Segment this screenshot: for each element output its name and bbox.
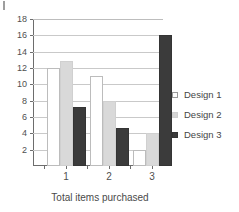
bar (133, 150, 146, 166)
x-tick-label: 1 (56, 171, 76, 182)
y-tick-label: 12 (5, 64, 27, 73)
bar (103, 101, 116, 166)
legend-item[interactable]: Design 2 (172, 110, 222, 120)
x-tick-mark-minor (130, 166, 131, 169)
y-tick-label: 16 (5, 31, 27, 40)
bar (146, 133, 159, 166)
legend-item[interactable]: Design 3 (172, 130, 222, 140)
y-tick-label: 10 (5, 80, 27, 89)
bar-group (133, 19, 172, 166)
x-tick-mark (152, 166, 153, 169)
bar (73, 107, 86, 166)
plot-area: 123 (33, 19, 163, 166)
bar-series-container (33, 19, 163, 166)
x-tick-mark-minor (44, 166, 45, 169)
legend-label: Design 1 (184, 90, 222, 100)
bar-group (47, 19, 86, 166)
legend-item[interactable]: Design 1 (172, 90, 222, 100)
bar (47, 68, 60, 166)
legend-label: Design 3 (184, 130, 222, 140)
y-tick-label: 4 (5, 129, 27, 138)
y-tick-label: 18 (5, 15, 27, 24)
x-tick-mark-minor (87, 166, 88, 169)
x-tick-label: 2 (99, 171, 119, 182)
bar (159, 35, 172, 166)
y-tick-label: 6 (5, 113, 27, 122)
legend-swatch-icon (172, 92, 178, 98)
x-tick-mark (109, 166, 110, 169)
y-tick-label: 2 (5, 146, 27, 155)
legend-swatch-icon (172, 132, 178, 138)
y-tick-label: 14 (5, 48, 27, 57)
legend: Design 1Design 2Design 3 (172, 90, 222, 150)
bar-chart: 123 24681012141618 Total items purchased… (0, 0, 239, 212)
bar (116, 128, 129, 166)
y-tick-label: 8 (5, 97, 27, 106)
scan-artifact (3, 1, 5, 10)
legend-swatch-icon (172, 112, 178, 118)
x-axis-title: Total items purchased (30, 192, 170, 203)
bar (60, 61, 73, 166)
x-tick-label: 3 (142, 171, 162, 182)
bar-group (90, 19, 129, 166)
bar (90, 76, 103, 166)
legend-label: Design 2 (184, 110, 222, 120)
x-tick-mark (66, 166, 67, 169)
